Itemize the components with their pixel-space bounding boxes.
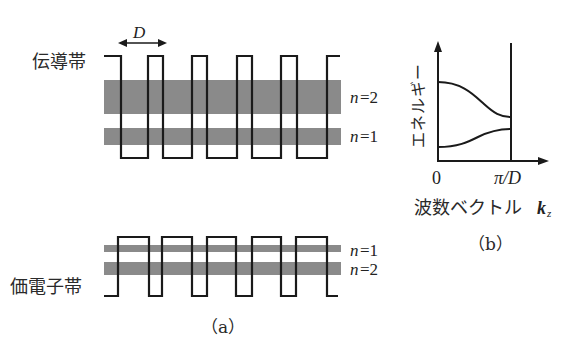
- panel-a: D 伝導帯 n =2 n =1 価電子帯 n =1 n: [10, 23, 378, 337]
- dispersion-curve-n2: [438, 82, 511, 117]
- valence-miniband-n1: [104, 245, 341, 252]
- x-tick-zero: 0: [432, 168, 441, 188]
- panel-b: エネルギー 0 π/D 波数ベクトル k z （b）: [409, 41, 552, 254]
- x-axis-variable: k: [537, 198, 546, 218]
- svg-text:=1: =1: [360, 127, 378, 146]
- valence-miniband-n2: [104, 262, 341, 275]
- arrow-left-icon: [118, 39, 127, 47]
- period-label: D: [132, 23, 146, 42]
- valence-n2-label: n =2: [350, 260, 378, 279]
- valence-n1-label: n =1: [350, 241, 378, 260]
- svg-text:n: n: [350, 127, 359, 146]
- arrow-right-icon: [158, 39, 167, 47]
- conduction-miniband-n2: [104, 80, 341, 114]
- x-axis-variable-subscript: z: [546, 207, 552, 219]
- panel-a-caption: （a）: [201, 317, 245, 337]
- y-axis-arrow-icon: [434, 41, 442, 52]
- svg-text:=2: =2: [360, 260, 378, 279]
- period-arrow: D: [118, 23, 167, 47]
- x-axis-arrow-icon: [538, 157, 549, 165]
- svg-text:n: n: [350, 241, 359, 260]
- svg-text:n: n: [350, 260, 359, 279]
- y-axis-label: エネルギー: [409, 63, 428, 148]
- svg-text:=1: =1: [360, 241, 378, 260]
- x-axis-label: 波数ベクトル: [414, 197, 522, 218]
- panel-b-caption: （b）: [468, 234, 513, 254]
- superlattice-figure: D 伝導帯 n =2 n =1 価電子帯 n =1 n: [0, 0, 570, 361]
- conduction-miniband-n1: [104, 128, 341, 145]
- conduction-band-label: 伝導帯: [32, 51, 86, 72]
- conduction-n2-label: n =2: [350, 88, 378, 107]
- conduction-n1-label: n =1: [350, 127, 378, 146]
- svg-text:n: n: [350, 88, 359, 107]
- valence-band-label: 価電子帯: [10, 276, 82, 297]
- dispersion-curve-n1: [438, 129, 511, 147]
- x-tick-pi-over-d: π/D: [494, 168, 521, 188]
- svg-text:=2: =2: [360, 88, 378, 107]
